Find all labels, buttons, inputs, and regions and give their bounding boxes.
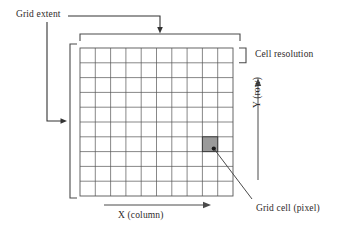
label-cell-resolution: Cell resolution [255, 49, 313, 59]
label-x-axis: X (column) [118, 210, 164, 220]
grid-cell-leader-dot [212, 147, 216, 151]
grid-extent-leader-top [68, 16, 163, 34]
label-grid-cell: Grid cell (pixel) [256, 203, 320, 213]
label-grid-extent: Grid extent [16, 9, 61, 19]
grid-extent-arrowhead-down [157, 27, 163, 34]
cell-resolution-bracket [239, 48, 246, 63]
grid-cells [80, 48, 233, 196]
label-y-axis: Y (row) [252, 77, 262, 108]
grid-extent-top-bracket [80, 34, 240, 41]
grid-extent-leader-left [47, 22, 67, 124]
figure-canvas: Grid extent Cell resolution Grid cell (p… [0, 0, 344, 233]
raster-grid-diagram [0, 0, 344, 233]
grid-extent-left-bracket [70, 44, 77, 198]
grid-extent-arrowhead-right [61, 118, 68, 124]
x-axis-arrowhead [203, 202, 211, 208]
x-axis-arrow [104, 202, 211, 208]
